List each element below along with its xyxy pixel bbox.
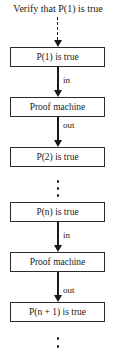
box-proof-machine: Proof machine [10, 97, 105, 117]
ellipsis-dot [57, 187, 60, 190]
arrow-in-line [57, 67, 59, 90]
arrowhead-icon [54, 295, 62, 302]
arrowhead-icon [54, 40, 62, 47]
edge-label-in: in [63, 230, 70, 240]
edge-label-in: in [63, 75, 70, 85]
box-pn-true: P(n) is true [10, 202, 105, 222]
box-proof-machine: Proof machine [10, 252, 105, 272]
arrowhead-icon [54, 140, 62, 147]
dashed-arrow-line [57, 17, 58, 40]
arrowhead-icon [54, 90, 62, 97]
box-p1-true: P(1) is true [10, 47, 105, 67]
box-p2-true: P(2) is true [10, 147, 105, 167]
edge-label-out: out [63, 120, 75, 130]
diagram-title: Verify that P(1) is true [0, 3, 116, 15]
ellipsis-dot [57, 180, 60, 183]
ellipsis-dot [57, 194, 60, 197]
ellipsis-dot [57, 345, 60, 348]
arrowhead-icon [54, 245, 62, 252]
box-pn1-true: P(n + 1) is true [10, 302, 105, 322]
ellipsis-dot [57, 337, 60, 340]
arrow-in-line [57, 222, 59, 245]
arrow-out-line [57, 117, 59, 140]
arrow-out-line [57, 272, 59, 295]
edge-label-out: out [63, 285, 75, 295]
